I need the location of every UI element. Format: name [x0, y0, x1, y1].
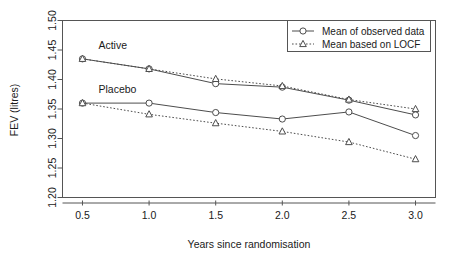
y-tick-label: 1.30	[46, 128, 58, 149]
x-tick-label: 2.5	[342, 209, 357, 221]
y-tick-label: 1.20	[46, 187, 58, 208]
legend-entry-label: Mean of observed data	[322, 26, 425, 37]
y-tick-label: 1.45	[46, 40, 58, 61]
data-point-marker	[412, 112, 418, 118]
y-axis-title: FEV (litres)	[8, 84, 20, 137]
x-tick-label: 1.0	[142, 209, 157, 221]
data-point-marker	[146, 100, 152, 106]
x-axis-title: Years since randomisation	[188, 238, 311, 250]
x-tick-label: 2.0	[275, 209, 290, 221]
chart-figure: 1.201.251.301.351.401.451.50 0.51.01.52.…	[0, 0, 457, 275]
y-tick-label: 1.35	[46, 99, 58, 120]
annotation-label-placebo: Placebo	[98, 83, 136, 95]
data-point-marker	[213, 109, 219, 115]
x-tick-label: 3.0	[408, 209, 423, 221]
annotation-label-active: Active	[98, 39, 127, 51]
y-tick-label: 1.50	[46, 10, 58, 31]
legend-entry-label: Mean based on LOCF	[322, 39, 420, 50]
chart-legend: Mean of observed dataMean based on LOCF	[288, 21, 431, 52]
data-point-marker	[412, 132, 418, 138]
y-tick-label: 1.40	[46, 69, 58, 90]
y-tick-label: 1.25	[46, 158, 58, 179]
x-tick-label: 1.5	[208, 209, 223, 221]
data-point-marker	[279, 116, 285, 122]
x-tick-label: 0.5	[75, 209, 90, 221]
legend-marker-circle	[300, 28, 306, 34]
fev-line-chart: 1.201.251.301.351.401.451.50 0.51.01.52.…	[0, 0, 457, 275]
data-point-marker	[346, 109, 352, 115]
